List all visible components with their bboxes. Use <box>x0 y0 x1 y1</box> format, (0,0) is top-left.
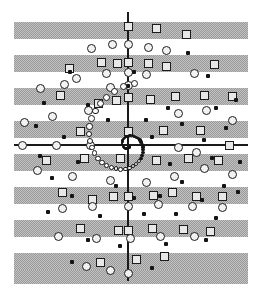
spiral-point <box>95 156 100 161</box>
spiral-point <box>92 150 98 156</box>
spiral-point <box>88 115 95 122</box>
spiral-point <box>92 108 99 115</box>
spiral-point <box>109 165 114 170</box>
spiral-point <box>86 123 92 129</box>
spiral-point <box>118 167 123 172</box>
logarithmic-spiral-layer <box>0 0 262 290</box>
spiral-point <box>103 94 110 101</box>
spiral-point <box>97 100 104 107</box>
spiral-point <box>111 88 118 95</box>
spiral-point <box>131 80 138 87</box>
spiral-point <box>123 167 128 172</box>
spiral-point <box>87 138 93 144</box>
spiral-point <box>89 145 95 151</box>
spiral-lattice-figure <box>0 0 262 290</box>
spiral-point <box>86 131 92 137</box>
spiral-point <box>127 166 131 170</box>
spiral-point <box>99 160 104 165</box>
spiral-point <box>120 83 127 90</box>
spiral-point <box>104 163 109 168</box>
